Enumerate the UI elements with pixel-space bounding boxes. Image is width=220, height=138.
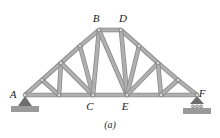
truss-joint (159, 93, 163, 97)
truss-joint (91, 93, 95, 97)
truss-joint (23, 93, 27, 97)
truss-joint (97, 28, 101, 32)
joint-label-e: E (121, 100, 129, 112)
truss-joint (125, 93, 129, 97)
supports-group (11, 96, 211, 114)
ground-base (11, 106, 39, 112)
truss-joint (59, 61, 63, 65)
truss-joint (137, 44, 141, 48)
truss-figure: ABCDEF (a) (0, 0, 220, 138)
roller-wheel (196, 105, 199, 108)
truss-joint (156, 61, 160, 65)
joint-label-d: D (118, 12, 127, 24)
truss-joint (40, 78, 44, 82)
roller-support (183, 96, 211, 114)
joint-label-a: A (9, 88, 17, 100)
roller-wheel (192, 105, 195, 108)
truss-member (139, 46, 158, 63)
members-group (25, 30, 197, 95)
truss-joint (119, 28, 123, 32)
figure-caption: (a) (104, 119, 116, 131)
truss-member (61, 46, 80, 63)
truss-member (59, 63, 61, 95)
truss-joint (57, 93, 61, 97)
joint-label-b: B (93, 12, 100, 24)
ground-base (183, 108, 211, 114)
joint-label-c: C (86, 100, 94, 112)
truss-joint (176, 78, 180, 82)
support-triangle (18, 96, 32, 106)
roller-wheel (200, 105, 203, 108)
truss-diagram: ABCDEF (a) (0, 0, 220, 138)
truss-joint (78, 44, 82, 48)
joint-label-f: F (198, 87, 206, 99)
